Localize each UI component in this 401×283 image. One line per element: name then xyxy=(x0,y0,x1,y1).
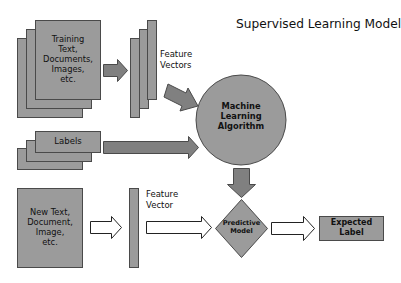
arrow-input-to-vector xyxy=(91,217,122,239)
text-line: Vector xyxy=(146,200,178,211)
feature-vectors-stack xyxy=(131,21,157,118)
feature-vector-bar xyxy=(130,189,139,268)
feature-vector-label: Feature Vector xyxy=(146,189,178,210)
text-line: Vectors xyxy=(160,60,192,71)
arrow-docs-to-vectors xyxy=(104,60,128,82)
new-input-label: New Text, Document, Image, etc. xyxy=(17,208,83,248)
predictive-model-label: Predictive Model xyxy=(215,220,268,236)
arrow-vector-to-model xyxy=(147,217,212,239)
text-line: Expected xyxy=(319,218,384,228)
training-docs-label: Training Text, Documents, Images, etc. xyxy=(35,35,101,85)
arrow-model-to-expected xyxy=(272,217,315,241)
text-line: Model xyxy=(215,228,268,236)
text-line: Algorithm xyxy=(200,122,282,132)
diagram-title: Supervised Learning Model xyxy=(236,17,401,31)
feature-vectors-label: Feature Vectors xyxy=(160,49,192,70)
arrow-labels-to-algorithm xyxy=(104,137,199,159)
arrow-vectors-to-algorithm xyxy=(164,84,198,111)
text-line: etc. xyxy=(17,238,83,248)
text-line: Label xyxy=(319,228,384,238)
ml-algorithm-label: Machine Learning Algorithm xyxy=(200,102,282,132)
labels-label: Labels xyxy=(35,136,101,146)
text-line: Feature xyxy=(146,189,178,200)
text-line: etc. xyxy=(35,75,101,85)
arrow-algorithm-to-model xyxy=(228,169,256,198)
text-line: Feature xyxy=(160,49,192,60)
expected-label-text: Expected Label xyxy=(319,218,384,237)
